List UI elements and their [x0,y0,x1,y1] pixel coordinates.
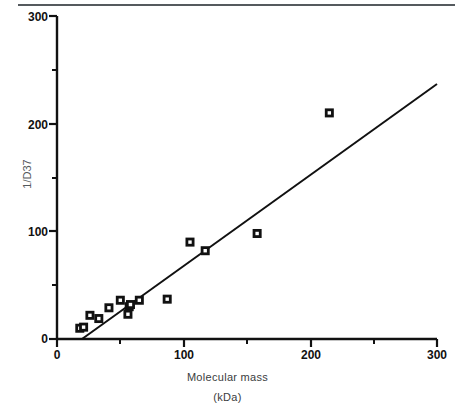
data-point-marker-inner [328,111,331,114]
data-point [85,311,94,320]
scatter-plot-svg [0,0,455,408]
data-point-marker-inner [204,249,207,252]
data-point-marker-inner [138,299,141,302]
data-point-marker-inner [97,317,100,320]
axis-lines [57,16,437,339]
data-point [253,229,262,238]
data-point-marker-inner [255,232,258,235]
data-point-marker-inner [82,325,85,328]
data-points-layer [75,108,334,332]
figure-container: 1/D37 300 200 100 0 0 100 200 300 Molecu… [0,0,455,408]
data-point-marker-inner [88,314,91,317]
data-point-marker-inner [119,299,122,302]
data-point-marker-inner [107,306,110,309]
data-point [163,295,172,304]
data-point [201,246,210,255]
data-point [135,296,144,305]
data-point [94,314,103,323]
data-point [126,300,135,309]
data-point [186,238,195,247]
data-point-marker-inner [126,313,129,316]
data-point [325,108,334,117]
data-point [79,323,88,332]
data-point-marker-inner [129,303,132,306]
x-axis-ticks [57,339,437,347]
data-point-marker-inner [188,240,191,243]
data-point [104,303,113,312]
data-point-marker-inner [166,297,169,300]
data-point [116,296,125,305]
